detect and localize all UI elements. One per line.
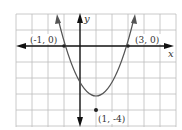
curve-arrow-right-icon (131, 14, 137, 24)
point-right-root (126, 44, 130, 48)
arrow-down-icon (77, 117, 83, 127)
y-axis-label: y (83, 13, 90, 24)
parabola-graph: (-1, 0) (3, 0) (1, -4) y x (0, 0, 182, 130)
point-left-root (62, 44, 66, 48)
curve-arrow-left-icon (55, 14, 61, 24)
point-vertex (94, 108, 98, 112)
label-left-root: (-1, 0) (30, 35, 57, 45)
arrow-up-icon (77, 13, 83, 23)
x-axis-label: x (168, 48, 174, 59)
label-vertex: (1, -4) (98, 114, 125, 124)
arrow-left-icon (16, 43, 26, 49)
label-right-root: (3, 0) (135, 35, 159, 45)
